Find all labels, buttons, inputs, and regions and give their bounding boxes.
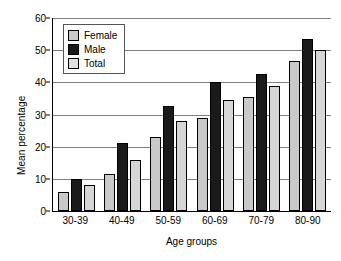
bar-total-30-39 — [84, 185, 95, 211]
x-axis-title: Age groups — [52, 236, 331, 247]
legend-swatch-icon — [68, 44, 79, 55]
chart-legend: FemaleMaleTotal — [63, 24, 125, 74]
y-tick-mark — [46, 114, 50, 115]
y-tick-label: 20 — [20, 141, 46, 152]
bar-female-40-49 — [104, 174, 115, 211]
x-tick-label: 50-59 — [155, 215, 181, 226]
bar-male-30-39 — [71, 179, 82, 211]
x-tick-label: 70-79 — [248, 215, 274, 226]
y-tick-label: 0 — [20, 206, 46, 217]
bar-female-70-79 — [243, 97, 254, 211]
bar-female-80-90 — [289, 61, 300, 211]
x-axis-tick-labels: 30-3940-4950-5960-6970-7980-90 — [52, 215, 331, 226]
bar-female-30-39 — [58, 192, 69, 211]
bar-total-80-90 — [315, 50, 326, 211]
legend-label: Total — [84, 58, 105, 69]
x-tick-label: 80-90 — [295, 215, 321, 226]
legend-label: Male — [84, 44, 106, 55]
bar-male-50-59 — [163, 106, 174, 211]
bar-female-50-59 — [150, 137, 161, 211]
y-tick-mark — [46, 18, 50, 19]
x-tick-label: 30-39 — [62, 215, 88, 226]
y-axis-tick-labels: 0102030405060 — [20, 12, 46, 212]
y-tick-label: 30 — [20, 109, 46, 120]
bar-group — [288, 18, 327, 211]
legend-label: Female — [84, 30, 117, 41]
y-tick-mark — [46, 82, 50, 83]
y-tick-mark — [46, 178, 50, 179]
x-tick-label: 60-69 — [202, 215, 228, 226]
bar-male-80-90 — [302, 39, 313, 211]
bar-female-60-69 — [197, 118, 208, 211]
bar-male-40-49 — [117, 143, 128, 211]
legend-item-total: Total — [68, 56, 117, 70]
bar-total-70-79 — [269, 86, 280, 211]
y-tick-mark — [46, 50, 50, 51]
bar-total-60-69 — [223, 100, 234, 211]
y-tick-mark — [46, 211, 50, 212]
x-tick-label: 40-49 — [109, 215, 135, 226]
bar-total-50-59 — [176, 121, 187, 211]
bar-male-60-69 — [210, 82, 221, 211]
bar-group — [196, 18, 235, 211]
y-tick-label: 10 — [20, 173, 46, 184]
legend-item-male: Male — [68, 42, 117, 56]
bar-group — [242, 18, 281, 211]
bar-group — [149, 18, 188, 211]
legend-swatch-icon — [68, 30, 79, 41]
y-tick-mark — [46, 146, 50, 147]
y-tick-label: 60 — [20, 13, 46, 24]
bar-total-40-49 — [130, 160, 141, 211]
legend-swatch-icon — [68, 58, 79, 69]
y-tick-label: 50 — [20, 45, 46, 56]
legend-item-female: Female — [68, 28, 117, 42]
chart-figure: Mean percentage 0102030405060 FemaleMale… — [0, 0, 341, 261]
y-tick-label: 40 — [20, 77, 46, 88]
bar-male-70-79 — [256, 74, 267, 211]
